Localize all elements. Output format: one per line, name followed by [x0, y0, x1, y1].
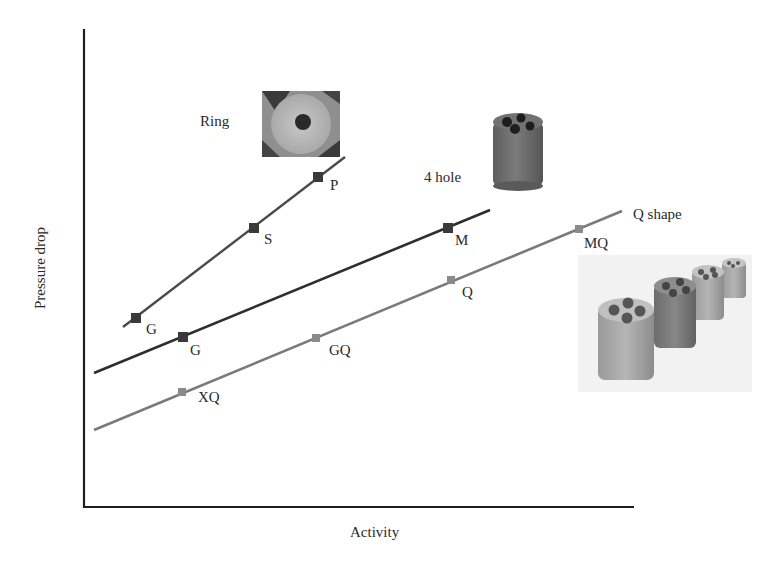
y-axis-title: Pressure drop — [32, 227, 49, 309]
q-shape-series-label: Q shape — [633, 207, 682, 222]
ring-line — [123, 157, 345, 327]
q-point-q-label: Q — [462, 285, 473, 300]
four-hole-point-g-marker — [178, 332, 188, 342]
ring-point-p-label: P — [330, 178, 338, 193]
ring-point-g-label: G — [146, 322, 157, 337]
q-shape-line — [94, 211, 622, 430]
q-point-xq-marker — [178, 388, 186, 396]
x-axis-title: Activity — [350, 524, 399, 541]
four-hole-catalyst-photo — [493, 113, 543, 191]
four-hole-point-m-marker — [443, 223, 453, 233]
four-hole-series-label: 4 hole — [424, 170, 461, 185]
ring-point-g-marker — [131, 313, 141, 323]
ring-point-p-marker — [313, 172, 323, 182]
ring-point-s-label: S — [264, 232, 272, 247]
q-point-mq-marker — [575, 225, 583, 233]
ring-series-label: Ring — [200, 114, 229, 129]
four-hole-point-g-label: G — [190, 343, 201, 358]
q-point-gq-marker — [312, 334, 320, 342]
axes — [83, 29, 634, 508]
q-point-gq-label: GQ — [329, 343, 351, 358]
q-shape-catalyst-photo — [578, 255, 752, 392]
four-hole-point-m-label: M — [455, 233, 468, 248]
q-point-q-marker — [447, 276, 455, 284]
ring-point-s-marker — [249, 223, 259, 233]
pressure-drop-vs-activity-diagram: Pressure drop Activity Ring 4 hole Q sha… — [0, 0, 783, 570]
series-ring — [123, 157, 345, 327]
series-q-shape — [94, 211, 622, 430]
q-point-xq-label: XQ — [198, 390, 220, 405]
ring-catalyst-photo — [262, 91, 340, 157]
q-point-mq-label: MQ — [584, 236, 608, 251]
chart-canvas — [0, 0, 783, 570]
